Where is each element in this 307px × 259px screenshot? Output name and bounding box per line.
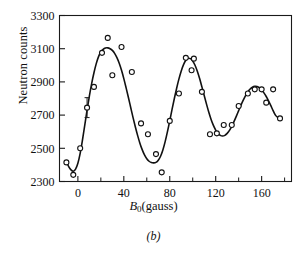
y-axis-ticks — [60, 16, 66, 182]
svg-text:3300: 3300 — [31, 9, 55, 23]
data-point — [221, 123, 226, 128]
svg-text:2300: 2300 — [31, 175, 55, 189]
data-point — [153, 152, 158, 157]
svg-text:2900: 2900 — [31, 75, 55, 89]
data-point — [183, 55, 188, 60]
data-point — [245, 91, 250, 96]
data-point — [78, 146, 83, 151]
svg-text:160: 160 — [253, 186, 271, 200]
data-point — [99, 50, 104, 55]
figure-container: Neutron counts 04080120160 2300250027002… — [0, 0, 307, 259]
data-point — [105, 35, 110, 40]
data-point — [236, 103, 241, 108]
data-point — [110, 73, 115, 78]
data-point — [129, 69, 134, 74]
svg-text:3100: 3100 — [31, 42, 55, 56]
data-point — [259, 87, 264, 92]
figure-caption: (b) — [0, 229, 307, 244]
svg-text:40: 40 — [118, 186, 130, 200]
data-point — [271, 87, 276, 92]
data-point — [278, 116, 283, 121]
data-point — [191, 56, 196, 61]
x-axis-label-units: (gauss) — [142, 199, 178, 213]
data-point — [214, 131, 219, 136]
data-point — [264, 100, 269, 105]
x-axis-tick-labels: 04080120160 — [75, 186, 271, 200]
data-point — [159, 170, 164, 175]
data-point — [207, 132, 212, 137]
data-point — [71, 172, 76, 177]
x-axis-label: B0(gauss) — [0, 199, 307, 214]
data-point — [64, 160, 69, 165]
svg-text:2700: 2700 — [31, 108, 55, 122]
x-axis-label-symbol: B — [129, 199, 137, 213]
data-point — [139, 121, 144, 126]
data-point — [145, 132, 150, 137]
fit-curve — [66, 48, 280, 171]
data-point — [91, 84, 96, 89]
neutron-counts-chart: 04080120160 230025002700290031003300 — [0, 0, 307, 259]
data-point — [252, 87, 257, 92]
svg-text:2500: 2500 — [31, 142, 55, 156]
data-point — [85, 105, 90, 110]
data-point — [189, 68, 194, 73]
plot-frame — [60, 16, 292, 182]
svg-text:80: 80 — [164, 186, 176, 200]
data-point — [176, 91, 181, 96]
data-point — [167, 118, 172, 123]
svg-text:0: 0 — [75, 186, 81, 200]
svg-text:120: 120 — [207, 186, 225, 200]
data-point — [119, 45, 124, 50]
data-point — [199, 89, 204, 94]
y-axis-tick-labels: 230025002700290031003300 — [31, 9, 55, 189]
x-axis-ticks — [78, 176, 285, 182]
data-point — [229, 123, 234, 128]
